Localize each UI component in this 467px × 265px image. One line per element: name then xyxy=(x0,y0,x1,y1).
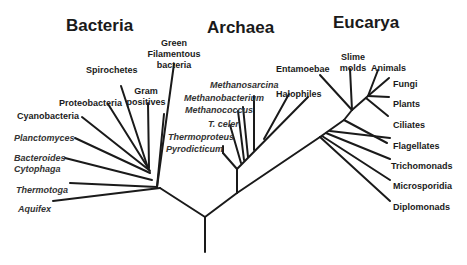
taxon-halophiles: Halophiles xyxy=(276,89,322,100)
taxon-plants: Plants xyxy=(393,99,420,110)
label-green: Green xyxy=(142,38,206,49)
label-gram: Gram xyxy=(124,86,168,97)
taxon-pyrodicticum: Pyrodicticum xyxy=(166,144,223,155)
label-molds: molds xyxy=(336,63,370,74)
taxon-green-filamentous-bacteria: Green Filamentous bacteria xyxy=(142,38,206,71)
taxon-entamoebae: Entamoebae xyxy=(276,64,330,75)
taxon-spirochetes: Spirochetes xyxy=(86,65,138,76)
label-slime: Slime xyxy=(336,52,370,63)
taxon-fungi: Fungi xyxy=(393,79,418,90)
taxon-trichomonads: Trichomonads xyxy=(391,161,453,172)
taxon-animals: Animals xyxy=(371,63,406,74)
branch-bacteria xyxy=(160,188,205,217)
taxon-t-celer: T. celer xyxy=(208,119,239,130)
taxon-proteobacteria: Proteobacteria xyxy=(59,98,122,109)
taxon-thermotoga: Thermotoga xyxy=(16,185,68,196)
branch-eucarya xyxy=(237,137,320,193)
taxon-thermoproteus: Thermoproteus xyxy=(168,132,234,143)
taxon-planctomyces: Planctomyces xyxy=(14,133,75,144)
label-bacteria: bacteria xyxy=(142,60,206,71)
domain-title-eucarya: Eucarya xyxy=(333,13,399,33)
taxon-gram-positives: Gram positives xyxy=(124,86,168,108)
taxon-flagellates: Flagellates xyxy=(393,141,440,152)
taxon-slime-molds: Slime molds xyxy=(336,52,370,74)
label-bacteroides: Bacteroides xyxy=(14,153,66,164)
branch-archaea-eucarya xyxy=(205,193,237,217)
taxon-methanococcus: Methanococcus xyxy=(185,105,253,116)
taxon-bacteroides-cytophaga: Bacteroides Cytophaga xyxy=(14,153,66,175)
domain-title-archaea: Archaea xyxy=(207,18,274,38)
taxon-methanosarcina: Methanosarcina xyxy=(210,80,279,91)
label-cytophaga: Cytophaga xyxy=(14,164,66,175)
taxon-aquifex: Aquifex xyxy=(18,204,51,215)
taxon-diplomonads: Diplomonads xyxy=(393,202,450,213)
taxon-ciliates: Ciliates xyxy=(393,120,425,131)
taxon-cyanobacteria: Cyanobacteria xyxy=(17,111,79,122)
taxon-microsporidia: Microsporidia xyxy=(393,181,452,192)
label-filamentous: Filamentous xyxy=(142,49,206,60)
label-positives: positives xyxy=(124,97,168,108)
domain-title-bacteria: Bacteria xyxy=(66,16,133,36)
taxon-methanobacterium: Methanobacterium xyxy=(184,93,264,104)
